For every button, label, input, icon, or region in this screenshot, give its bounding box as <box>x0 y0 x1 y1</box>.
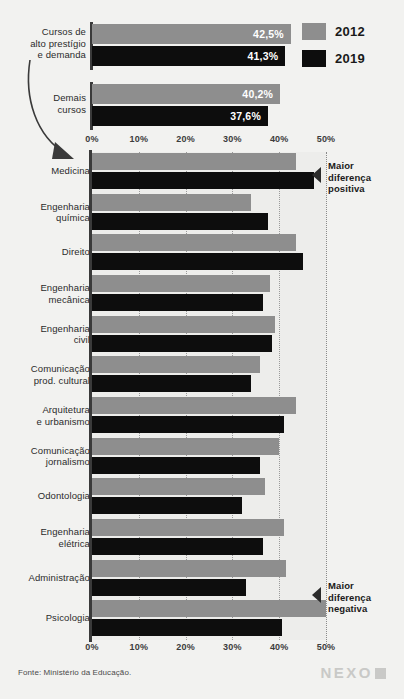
x-tick-label: 40% <box>270 642 289 652</box>
category-label: Engenhariaquímica <box>0 201 90 224</box>
summary-bar-2012: 40,2% <box>92 84 280 104</box>
summary-row: Demaiscursos 40,2% 37,6% <box>0 84 404 128</box>
bar-2012 <box>92 234 296 251</box>
category-label: Arquiteturae urbanismo <box>0 404 90 427</box>
x-tick-label: 0% <box>85 134 98 144</box>
triangle-left-icon <box>312 167 321 183</box>
bar-2012 <box>92 194 251 211</box>
category-label: Odontologia <box>0 490 90 502</box>
bar-2012 <box>92 153 296 170</box>
category-label: Engenhariaelétrica <box>0 526 90 549</box>
bar-2019 <box>92 213 268 230</box>
summary-value-2012: 40,2% <box>242 88 280 100</box>
x-axis-top: 0%10%20%30%40%50% <box>0 134 404 148</box>
bar-2012 <box>92 600 326 617</box>
bar-2012 <box>92 560 286 577</box>
annotation-positive: Maiordiferençapositiva <box>312 160 404 195</box>
x-tick-label: 20% <box>176 642 195 652</box>
bar-2019 <box>92 538 263 555</box>
chart-row: Arquiteturae urbanismo <box>92 396 392 437</box>
bar-2012 <box>92 397 296 414</box>
category-label: Medicina <box>0 165 90 177</box>
bar-2019 <box>92 375 251 392</box>
nexo-mark-icon <box>375 668 386 679</box>
legend-item-2019: 2019 <box>302 47 394 69</box>
summary-value-2019: 41,3% <box>248 50 286 62</box>
bar-2019 <box>92 579 246 596</box>
category-label: Psicologia <box>0 612 90 624</box>
annotation-positive-text: Maiordiferençapositiva <box>328 160 371 195</box>
summary-row-label: Demaiscursos <box>0 92 86 115</box>
bar-2019 <box>92 294 263 311</box>
legend-label: 2012 <box>335 24 365 39</box>
bar-2019 <box>92 335 272 352</box>
chart-row: Engenhariacivil <box>92 315 392 356</box>
summary-row-label: Cursos dealto prestígioe demanda <box>0 26 86 61</box>
bar-2019 <box>92 172 314 189</box>
triangle-left-icon <box>312 587 321 603</box>
x-tick-label: 10% <box>129 134 148 144</box>
x-tick-label: 50% <box>317 134 336 144</box>
bar-2019 <box>92 457 260 474</box>
chart-row: Comunicaçãojornalismo <box>92 437 392 478</box>
source-note: Fonte: Ministério da Educação. <box>18 668 131 677</box>
category-label: Engenhariacivil <box>0 323 90 346</box>
bar-2019 <box>92 497 242 514</box>
bar-2012 <box>92 275 270 292</box>
bar-2012 <box>92 316 275 333</box>
legend-swatch-icon <box>302 23 326 40</box>
bar-2012 <box>92 356 260 373</box>
bar-2012 <box>92 519 284 536</box>
nexo-logo: NEXO <box>320 664 386 681</box>
category-label: Direito <box>0 246 90 258</box>
x-tick-label: 20% <box>176 134 195 144</box>
x-tick-label: 0% <box>85 642 98 652</box>
summary-bar-2012: 42,5% <box>92 24 291 44</box>
category-label: Comunicaçãojornalismo <box>0 445 90 468</box>
summary-value-2019: 37,6% <box>230 110 268 122</box>
nexo-wordmark: NEXO <box>320 664 373 681</box>
summary-bar-2019: 41,3% <box>92 46 285 66</box>
x-axis-bottom: 0%10%20%30%40%50% <box>0 642 404 656</box>
chart-row: Engenhariaelétrica <box>92 518 392 559</box>
bar-2012 <box>92 438 279 455</box>
bar-2019 <box>92 253 303 270</box>
legend-swatch-icon <box>302 50 326 67</box>
plot-area: MedicinaEngenhariaquímicaDireitoEngenhar… <box>92 152 392 640</box>
summary-value-2012: 42,5% <box>253 28 291 40</box>
chart-row: Engenhariaquímica <box>92 193 392 234</box>
chart-row: Odontologia <box>92 477 392 518</box>
legend-item-2012: 2012 <box>302 20 394 42</box>
x-tick-label: 30% <box>223 642 242 652</box>
chart-footer: Fonte: Ministério da Educação. NEXO <box>0 664 404 699</box>
summary-bar-track: 40,2% 37,6% <box>92 84 392 128</box>
x-tick-label: 30% <box>223 134 242 144</box>
annotation-negative-text: Maiordiferençanegativa <box>328 580 371 615</box>
chart-row: Direito <box>92 233 392 274</box>
bar-2012 <box>92 478 265 495</box>
summary-bar-2019: 37,6% <box>92 106 268 126</box>
main-chart: 0%10%20%30%40%50% MedicinaEngenhariaquím… <box>0 134 404 664</box>
annotation-negative: Maiordiferençanegativa <box>312 580 404 615</box>
bar-2019 <box>92 619 282 636</box>
category-label: Comunicaçãoprod. cultural <box>0 363 90 386</box>
chart-row: Engenhariamecânica <box>92 274 392 315</box>
x-tick-label: 50% <box>317 642 336 652</box>
bar-2019 <box>92 416 284 433</box>
category-label: Engenhariamecânica <box>0 282 90 305</box>
chart-row: Comunicaçãoprod. cultural <box>92 355 392 396</box>
legend-label: 2019 <box>335 51 365 66</box>
x-tick-label: 40% <box>270 134 289 144</box>
x-tick-label: 10% <box>129 642 148 652</box>
chart-legend: 2012 2019 <box>302 20 394 74</box>
category-label: Administração <box>0 572 90 584</box>
